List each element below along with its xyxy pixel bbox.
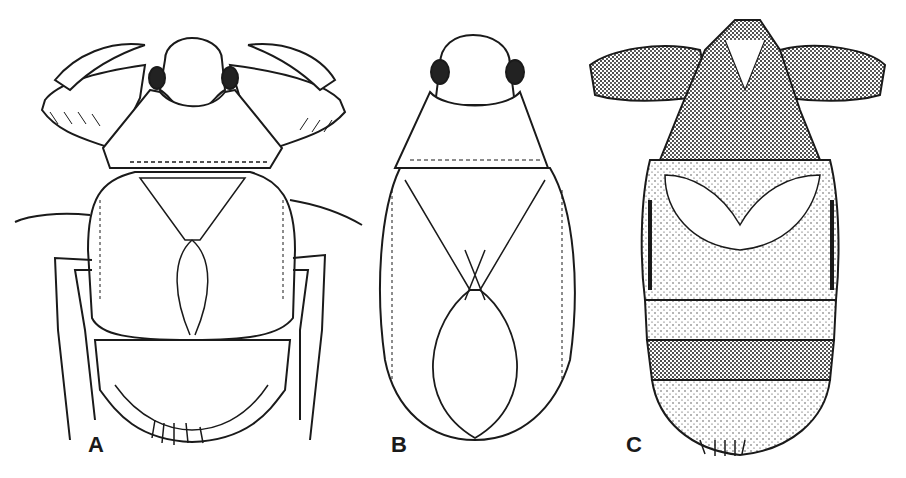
eye-left-icon — [431, 60, 449, 84]
specimen-drawings — [0, 0, 906, 478]
panel-label-c: C — [626, 432, 642, 458]
figure-canvas: A B C — [0, 0, 906, 478]
specimen-c — [590, 20, 885, 456]
specimen-b — [380, 35, 575, 440]
eye-left-icon — [149, 67, 165, 89]
specimen-a — [15, 38, 362, 445]
eye-right-icon — [222, 67, 238, 89]
panel-label-a: A — [88, 432, 104, 458]
panel-label-b: B — [391, 432, 407, 458]
eye-right-icon — [506, 60, 524, 84]
